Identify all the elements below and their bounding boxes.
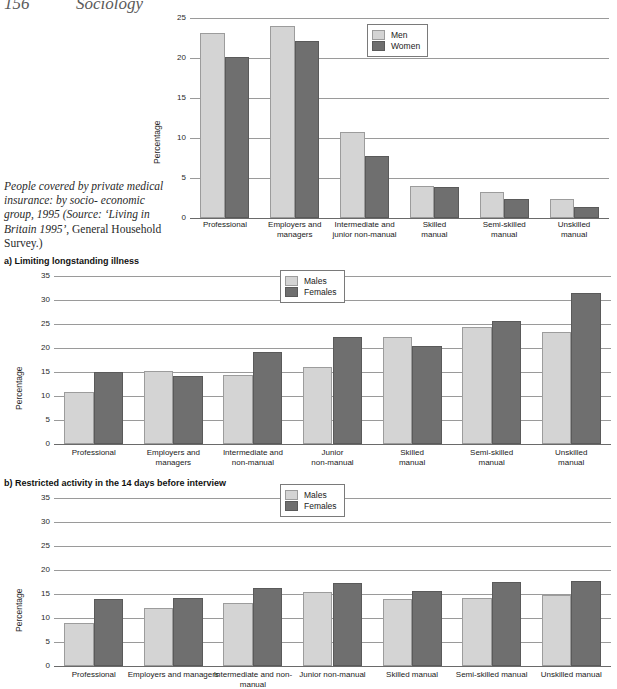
- x-axis-category-line: non-manual: [287, 458, 379, 468]
- legend-swatch-icon: [285, 501, 298, 511]
- bar-females-2: [253, 352, 282, 444]
- axis-baseline: [54, 666, 611, 667]
- x-axis-category-label: Semi-skilled manual: [446, 670, 538, 680]
- x-axis-category-line: Professional: [48, 448, 140, 458]
- bar-females-4: [412, 591, 441, 666]
- legend-label: Males: [304, 276, 327, 286]
- bar-males-4: [383, 337, 412, 444]
- x-axis-category-line: Unskilled: [525, 448, 617, 458]
- gridline: [190, 58, 609, 59]
- bar-females-0: [94, 372, 123, 444]
- gridline: [54, 570, 611, 571]
- bar-females-4: [412, 346, 441, 444]
- y-axis-tick-label: 35: [24, 272, 50, 280]
- y-axis-tick-label: 15: [24, 368, 50, 376]
- gridline: [54, 324, 611, 325]
- x-axis-category-label: Unskilledmanual: [525, 448, 617, 467]
- y-axis-tick-label: 5: [160, 174, 186, 182]
- bar-males-6: [542, 332, 571, 444]
- legend-item-males[interactable]: Males: [285, 276, 337, 286]
- axis-baseline: [54, 444, 611, 445]
- y-axis-tick-label: 15: [160, 94, 186, 102]
- y-axis-tick-label: 5: [24, 416, 50, 424]
- bar-males-0: [64, 392, 93, 444]
- y-axis-title: Percentage: [152, 121, 162, 164]
- x-axis-category-line: manual: [446, 458, 538, 468]
- x-axis-category-line: manual: [533, 230, 615, 240]
- caption-source-year: 1995’: [39, 223, 66, 235]
- x-axis-category-label: Skilledmanual: [366, 448, 458, 467]
- y-axis-tick-label: 0: [24, 440, 50, 448]
- chart-private-medical-insurance: 0510152025PercentageProfessionalEmployer…: [170, 14, 617, 254]
- chart-legend: MalesFemales: [280, 270, 345, 303]
- bar-females-5: [492, 582, 521, 666]
- bar-females-1: [173, 376, 202, 444]
- bar-males-5: [462, 598, 491, 666]
- x-axis-category-label: Unskilledmanual: [533, 220, 615, 239]
- bar-men-5: [550, 199, 574, 218]
- x-axis-category-line: Semi-skilled manual: [446, 670, 538, 680]
- bar-females-6: [571, 581, 600, 666]
- bar-men-0: [200, 33, 224, 218]
- figure-caption: People covered by private medical insura…: [4, 179, 174, 250]
- legend-label: Males: [304, 490, 327, 500]
- x-axis-category-line: Professional: [48, 670, 140, 680]
- book-title: Sociology: [76, 0, 143, 14]
- x-axis-category-label: Intermediate and non-manual: [207, 670, 299, 689]
- y-axis-tick-label: 20: [160, 54, 186, 62]
- x-axis-category-label: Skilled manual: [366, 670, 458, 680]
- x-axis-category-line: manual: [525, 458, 617, 468]
- bar-men-2: [340, 132, 364, 218]
- legend-label: Women: [391, 41, 420, 51]
- gridline: [54, 522, 611, 523]
- x-axis-category-line: Employers and managers: [128, 670, 220, 680]
- bar-females-3: [333, 583, 362, 666]
- bar-males-2: [223, 375, 252, 444]
- y-axis-tick-label: 0: [24, 662, 50, 670]
- x-axis-category-line: non-manual: [207, 458, 299, 468]
- y-axis-tick-label: 25: [24, 542, 50, 550]
- x-axis-category-line: managers: [128, 458, 220, 468]
- y-axis-tick-label: 30: [24, 296, 50, 304]
- x-axis-category-label: Employers and managers: [128, 670, 220, 680]
- caption-source-rest: , General Household: [66, 223, 161, 235]
- bar-males-0: [64, 623, 93, 666]
- x-axis-category-line: Junior: [287, 448, 379, 458]
- legend-label: Females: [304, 287, 337, 297]
- x-axis-category-label: Unskilled manual: [525, 670, 617, 680]
- bar-males-1: [144, 608, 173, 666]
- bar-women-1: [295, 41, 319, 218]
- section-b-title: b) Restricted activity in the 14 days be…: [4, 478, 226, 488]
- legend-item-men[interactable]: Men: [372, 30, 420, 40]
- caption-line-1: People covered by private: [4, 180, 124, 192]
- y-axis-tick-label: 25: [24, 320, 50, 328]
- legend-item-women[interactable]: Women: [372, 41, 420, 51]
- bar-women-5: [574, 207, 598, 218]
- x-axis-category-label: Intermediate andnon-manual: [207, 448, 299, 467]
- x-axis-category-label: Professional: [48, 448, 140, 458]
- x-axis-category-line: Unskilled: [533, 220, 615, 230]
- gridline: [190, 98, 609, 99]
- x-axis-category-label: Juniornon-manual: [287, 448, 379, 467]
- x-axis-category-line: Junior non-manual: [287, 670, 379, 680]
- bar-women-0: [225, 57, 249, 218]
- y-axis-tick-label: 10: [24, 392, 50, 400]
- bar-males-1: [144, 371, 173, 444]
- bar-females-5: [492, 321, 521, 444]
- legend-item-males[interactable]: Males: [285, 490, 337, 500]
- bar-males-5: [462, 327, 491, 444]
- axis-baseline: [190, 218, 609, 219]
- caption-source-open: (Source:: [63, 208, 105, 220]
- bar-males-6: [542, 595, 571, 666]
- bar-males-3: [303, 367, 332, 444]
- legend-item-females[interactable]: Females: [285, 287, 337, 297]
- bar-males-3: [303, 592, 332, 666]
- legend-item-females[interactable]: Females: [285, 501, 337, 511]
- x-axis-category-line: Unskilled manual: [525, 670, 617, 680]
- x-axis-category-label: Professional: [48, 670, 140, 680]
- legend-swatch-icon: [285, 490, 298, 500]
- gridline: [190, 138, 609, 139]
- legend-label: Females: [304, 501, 337, 511]
- y-axis-tick-label: 10: [160, 134, 186, 142]
- caption-source-end: Survey.): [4, 237, 43, 249]
